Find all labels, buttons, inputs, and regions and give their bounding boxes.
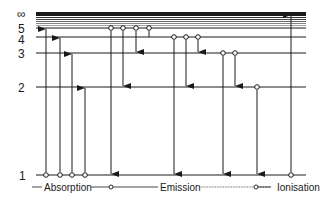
emission-transitions [109,26,260,174]
legend: Absorption Emission Ionisation [32,182,320,193]
legend-circle-icon [109,185,113,189]
emission-origin-circle [147,26,152,31]
emission-origin-circle [233,51,238,56]
absorption-origin-circle [83,173,88,178]
energy-level-diagram: ∞ 5 4 3 2 1 [0,0,329,201]
continuum-band [36,12,306,26]
ionisation-origin-circle [289,173,294,178]
level-label-infinity: ∞ [17,7,26,21]
emission-origin-circle [134,26,139,31]
legend-emission-label: Emission [160,182,201,193]
absorption-origin-circle [58,173,63,178]
emission-origin-circle [255,85,260,90]
legend-circle-icon [254,185,258,189]
level-label-3: 3 [18,47,25,61]
absorption-transitions [44,29,88,177]
absorption-origin-circle [70,173,75,178]
level-label-2: 2 [18,81,25,95]
level-label-4: 4 [18,33,25,47]
emission-origin-circle [184,35,189,40]
energy-levels [36,28,306,175]
emission-origin-circle [121,26,126,31]
ionisation-transition [289,15,294,177]
level-labels: ∞ 5 4 3 2 1 [17,7,26,183]
absorption-origin-circle [44,173,49,178]
emission-origin-circle [172,35,177,40]
emission-origin-circle [196,35,201,40]
legend-absorption-label: Absorption [44,182,92,193]
emission-origin-circle [109,26,114,31]
emission-origin-circle [221,51,226,56]
legend-ionisation-label: Ionisation [277,182,320,193]
level-label-1: 1 [19,169,26,183]
